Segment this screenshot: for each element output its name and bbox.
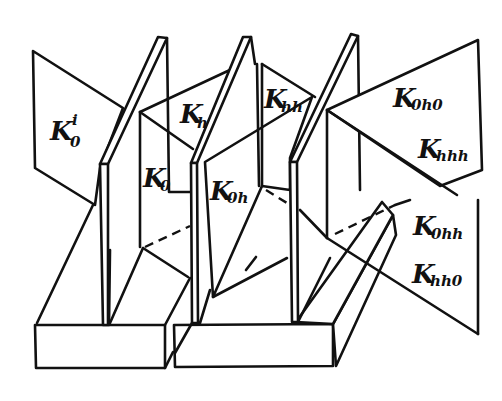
plane-k0i [33,51,123,205]
label-k0: K 0 [142,163,171,195]
svg-text:hhh: hhh [436,147,469,165]
svg-text:hh0: hh0 [430,272,463,290]
label-khh: K hh [263,84,303,116]
svg-text:hh: hh [281,98,303,116]
svg-text:0h0: 0h0 [411,96,443,114]
label-khh0: K hh0 [411,259,463,290]
base-block-1 [35,278,190,368]
label-k0hh: K 0hh [412,211,463,243]
plates-diagram: K 0 i K h K 0 K hh K 0h K 0h0 K hhh K 0h… [0,0,502,401]
svg-text:0hh: 0hh [431,225,463,243]
svg-text:i: i [72,111,78,129]
svg-text:0: 0 [160,177,171,195]
base-block-2 [174,202,396,367]
block-1-surfaces [37,205,190,323]
svg-text:h: h [197,114,208,132]
label-kh: K h [179,99,208,132]
svg-text:0h: 0h [227,189,248,207]
svg-text:0: 0 [70,133,81,151]
